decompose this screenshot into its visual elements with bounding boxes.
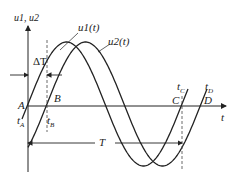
t-b-sub: B (50, 121, 54, 129)
t-a-sub: A (20, 121, 24, 129)
t-d-sub: D (208, 87, 213, 95)
t-a-label: tA (17, 115, 24, 129)
t-d-label: tD (205, 81, 213, 95)
u2-label: u2(t) (108, 36, 129, 47)
x-axis-label: t (221, 112, 224, 123)
diagram-canvas (0, 0, 238, 182)
point-a-label: A (18, 100, 25, 111)
point-d-label: D (204, 95, 212, 106)
y-axis-label: u1, u2 (14, 13, 39, 23)
waveform-diagram: u1, u2 u1(t) u2(t) ΔT A B C D t T tA tB … (0, 0, 238, 182)
t-c-sub: C (180, 87, 185, 95)
delta-t-label: ΔT (33, 56, 47, 67)
point-c-label: C (172, 95, 179, 106)
point-b-label: B (54, 93, 61, 104)
t-b-label: tB (47, 115, 54, 129)
u2-curve (28, 42, 207, 166)
period-label: T (99, 137, 105, 148)
u1-label: u1(t) (78, 22, 99, 33)
t-c-label: tC (177, 81, 185, 95)
